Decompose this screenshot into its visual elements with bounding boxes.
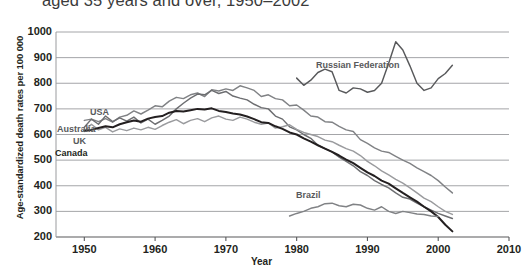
series-label-russian-federation: Russian Federation: [316, 60, 400, 70]
series-line-brazil: [290, 203, 439, 216]
series-label-usa: USA: [90, 107, 109, 117]
axis-lines: [56, 32, 509, 241]
gridlines: [56, 32, 509, 237]
series-label-canada: Canada: [55, 148, 88, 158]
series-line-usa: [84, 86, 452, 193]
series-label-brazil: Brazil: [296, 190, 321, 200]
chart-container: aged 35 years and over, 1950–2002 Age-st…: [0, 0, 523, 269]
series-line-australia: [84, 90, 452, 218]
series-line-uk: [84, 116, 452, 214]
plot-area: [0, 0, 523, 269]
series-label-uk: UK: [73, 136, 86, 146]
series-lines: [84, 42, 452, 232]
series-label-australia: Australia: [57, 124, 96, 134]
